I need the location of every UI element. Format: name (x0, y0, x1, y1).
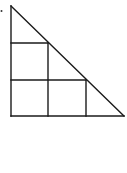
corner-mark (1, 10, 3, 12)
triangle-hypotenuse (11, 6, 124, 116)
triangle-grid-diagram (0, 0, 127, 173)
